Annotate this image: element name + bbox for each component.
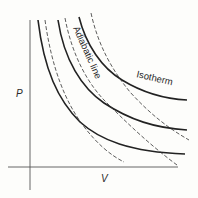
isotherm-curve-1 [38, 20, 185, 154]
isotherm-label: Isotherm [136, 68, 175, 87]
v-axis-label: V [101, 173, 109, 184]
pv-diagram: Adiabatic line Isotherm P V [0, 0, 198, 198]
p-axis-label: P [16, 88, 23, 99]
